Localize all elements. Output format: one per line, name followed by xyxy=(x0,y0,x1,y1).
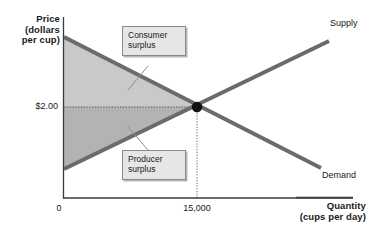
y-axis-title-line-3: per cup) xyxy=(22,34,60,45)
x-axis-title: Quantity(cups per day) xyxy=(266,201,366,222)
y-axis-title-line-1: Price xyxy=(36,13,60,24)
consumer-surplus-callout-line-1: Consumer xyxy=(128,30,167,40)
y-axis-tick-label-price: $2.00 xyxy=(16,101,58,111)
producer-surplus-callout: Producersurplus xyxy=(122,150,186,180)
equilibrium-point xyxy=(192,102,202,112)
x-axis-tick-label-origin: 0 xyxy=(52,203,66,213)
demand-curve-label: Demand xyxy=(322,170,356,180)
producer-surplus-callout-line-1: Producer xyxy=(128,154,163,164)
consumer-surplus-callout: Consumersurplus xyxy=(122,26,186,56)
y-axis-title: Price(dollarsper cup) xyxy=(8,14,60,46)
x-axis-tick-label-quantity: 15,000 xyxy=(174,203,220,213)
x-axis-title-line-2: (cups per day) xyxy=(300,211,366,222)
y-axis-title-line-2: (dollars xyxy=(25,24,60,35)
producer-surplus-callout-line-2: surplus xyxy=(128,164,155,174)
supply-curve-label: Supply xyxy=(330,18,358,28)
supply-demand-surplus-chart: Price(dollarsper cup) $2.00 0 15,000 Qua… xyxy=(0,0,370,238)
consumer-surplus-callout-line-2: surplus xyxy=(128,40,155,50)
x-axis-title-line-1: Quantity xyxy=(327,200,366,211)
